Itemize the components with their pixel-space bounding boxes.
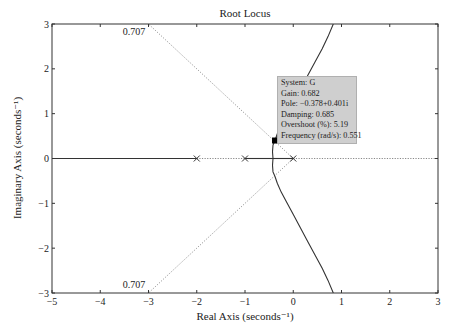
datatip-box: System: G Gain: 0.682 Pole: −0.378+0.401… [277, 76, 357, 144]
x-tick-label: 1 [339, 296, 344, 307]
datatip-gain: Gain: 0.682 [281, 89, 353, 100]
y-tick-label: 1 [44, 108, 49, 119]
x-tick-label: −4 [95, 296, 106, 307]
datatip-pole: Pole: −0.378+0.401i [281, 99, 353, 110]
y-tick-label: 2 [44, 63, 49, 74]
datatip-frequency: Frequency (rad/s): 0.551 [281, 131, 353, 142]
y-tick-label: −1 [38, 198, 49, 209]
y-tick-label: 3 [44, 19, 49, 30]
damping-label: 0.707 [123, 279, 146, 290]
damping-line [149, 24, 294, 159]
y-tick-label: −2 [38, 243, 49, 254]
locus-branch-lower [273, 159, 334, 294]
x-tick-label: −3 [143, 296, 154, 307]
y-axis-label: Imaginary Axis (seconds⁻¹) [11, 97, 24, 219]
chart-title: Root Locus [219, 7, 270, 19]
damping-line [149, 159, 294, 294]
damping-label: 0.707 [123, 26, 146, 37]
x-tick-label: 2 [387, 296, 392, 307]
datatip-overshoot: Overshoot (%): 5.19 [281, 120, 353, 131]
x-tick-label: −2 [191, 296, 202, 307]
root-locus-chart: Root Locus 0.7070.707 −5−4−3−2−10123−3−2… [0, 0, 454, 333]
y-tick-label: −3 [38, 288, 49, 299]
x-tick-label: 0 [291, 296, 296, 307]
x-tick-label: 3 [436, 296, 441, 307]
datatip-damping: Damping: 0.685 [281, 110, 353, 121]
datatip-system: System: G [281, 78, 353, 89]
x-tick-label: −1 [240, 296, 251, 307]
y-tick-label: 0 [44, 153, 49, 164]
x-axis-label: Real Axis (seconds⁻¹) [196, 310, 293, 323]
